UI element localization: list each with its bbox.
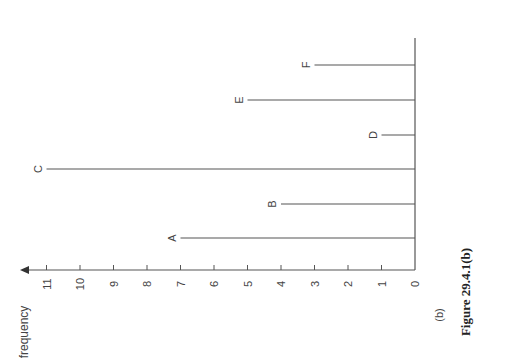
- frequency-stick-chart: 01234567891011 ABCDEF frequency (b) Figu…: [0, 0, 522, 361]
- frequency-ticks: 01234567891011: [41, 265, 422, 290]
- figure-caption: Figure 29.4.1(b): [458, 248, 473, 336]
- bar-label-E: E: [233, 96, 245, 103]
- bar-label-F: F: [300, 61, 312, 68]
- tick-label: 0: [409, 281, 421, 287]
- tick-label: 1: [376, 281, 388, 287]
- bar-label-D: D: [367, 131, 379, 139]
- bar-label-A: A: [166, 234, 178, 242]
- tick-label: 8: [141, 281, 153, 287]
- axis-title: frequency: [17, 306, 31, 359]
- axis-arrow-icon: [20, 266, 29, 274]
- tick-label: 9: [108, 281, 120, 287]
- bar-label-C: C: [32, 165, 44, 173]
- tick-label: 4: [275, 281, 287, 287]
- bar-label-B: B: [266, 200, 278, 207]
- tick-label: 10: [74, 278, 86, 290]
- tick-label: 11: [41, 278, 53, 289]
- panel-sublabel: (b): [433, 308, 445, 321]
- bars: ABCDEF: [32, 61, 416, 241]
- tick-label: 6: [208, 281, 220, 287]
- tick-label: 7: [175, 281, 187, 287]
- tick-label: 5: [242, 281, 254, 287]
- tick-label: 3: [309, 281, 321, 287]
- tick-label: 2: [342, 281, 354, 287]
